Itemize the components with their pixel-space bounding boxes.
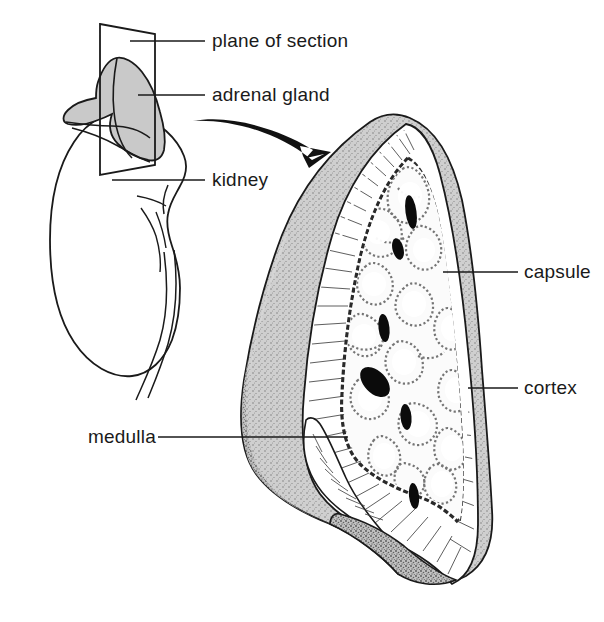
figure-root: plane of section adrenal gland kidney ca… bbox=[0, 0, 604, 622]
label-capsule: capsule bbox=[524, 261, 591, 282]
adrenal-gland-diagram: plane of section adrenal gland kidney ca… bbox=[0, 0, 604, 622]
label-medulla: medulla bbox=[88, 426, 156, 447]
label-adrenal-gland: adrenal gland bbox=[212, 84, 330, 105]
label-plane-of-section: plane of section bbox=[212, 30, 348, 51]
label-kidney: kidney bbox=[212, 169, 268, 190]
label-cortex: cortex bbox=[524, 377, 577, 398]
